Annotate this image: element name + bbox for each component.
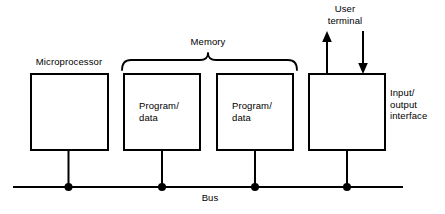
arrow-head-up-icon — [322, 31, 332, 42]
arrow-head-down-icon — [358, 63, 368, 74]
label-memory-group: Memory — [191, 36, 226, 48]
label-io-interface: Input/ output interface — [390, 87, 427, 122]
memory-group-brace — [122, 53, 297, 70]
label-user-terminal: User terminal — [328, 3, 363, 26]
label-memory-1: Program/ data — [139, 100, 179, 123]
block-microprocessor — [31, 74, 108, 150]
bus-junction-dot — [158, 183, 166, 191]
bus-junction-dot — [65, 183, 73, 191]
diagram-canvas — [0, 0, 445, 214]
label-bus: Bus — [202, 192, 219, 204]
label-microprocessor: Microprocessor — [36, 56, 102, 68]
block-diagram: Microprocessor Memory Program/ data Prog… — [0, 0, 445, 214]
label-memory-2: Program/ data — [232, 100, 272, 123]
block-io-interface — [309, 74, 385, 150]
bus-junction-dot — [251, 183, 259, 191]
bus-junction-dot — [343, 183, 351, 191]
